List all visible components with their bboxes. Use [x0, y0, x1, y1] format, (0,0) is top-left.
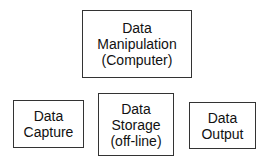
node-label-line: Data — [208, 110, 238, 126]
node-data-output: Data Output — [189, 102, 256, 149]
node-label-line: Capture — [24, 124, 74, 140]
node-data-capture: Data Capture — [13, 100, 84, 148]
node-label-line: Output — [201, 126, 243, 142]
node-label-line: Manipulation — [97, 36, 176, 52]
node-label-line: Data — [34, 108, 64, 124]
node-label-line: Storage — [111, 117, 160, 133]
node-data-storage: Data Storage (off-line) — [98, 93, 174, 156]
node-label-line: (off-line) — [110, 133, 161, 149]
node-data-manipulation: Data Manipulation (Computer) — [82, 10, 192, 78]
node-label-line: Data — [121, 101, 151, 117]
node-label-line: (Computer) — [102, 52, 173, 68]
node-label-line: Data — [122, 20, 152, 36]
